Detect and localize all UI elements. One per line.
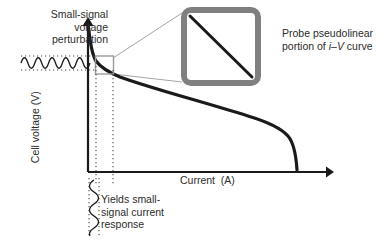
probe-label-line1: Probe pseudolinear — [282, 27, 373, 39]
y-axis-label: Cell voltage (V) — [29, 72, 42, 182]
probe-label-iv: i–V — [329, 40, 344, 52]
x-axis-label: Current (A) — [180, 174, 235, 187]
yields-label: Yields small- signal current response — [101, 193, 196, 231]
probe-label-prefix: portion of — [282, 40, 329, 52]
probe-label: Probe pseudolinearportion of i–V curve — [282, 27, 382, 52]
inset-magnifier — [184, 10, 258, 83]
probe-label-suffix: curve — [344, 40, 373, 52]
perturbation-label: Small-signal voltage perturbation — [4, 8, 108, 46]
